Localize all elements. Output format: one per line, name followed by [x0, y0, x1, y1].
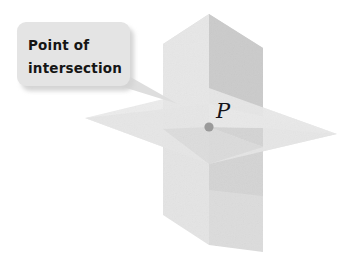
figure-root: Point of intersection P — [0, 0, 354, 255]
callout-box-background[interactable] — [17, 22, 130, 86]
callout-line-2: intersection — [28, 60, 122, 76]
callout-box[interactable]: Point of intersection — [17, 22, 130, 86]
planes-intersection-diagram: Point of intersection P — [0, 0, 354, 255]
callout-line-1: Point of — [28, 37, 89, 53]
intersection-point-dot — [204, 122, 213, 131]
point-label-P: P — [215, 99, 231, 123]
